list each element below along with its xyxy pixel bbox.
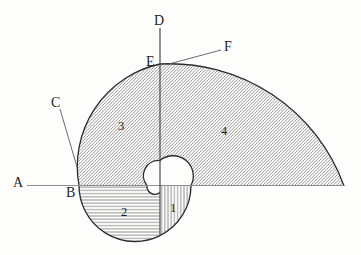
point-label-e: E [146,54,155,69]
region-label-2: 2 [121,205,127,219]
region-label-3: 3 [118,119,124,133]
point-label-d: D [154,13,164,28]
spiral-figure: A B C D E F 1 2 3 4 [0,0,361,255]
pointer-line-f [167,50,221,65]
hatch-region-2 [79,186,160,242]
point-label-c: C [51,95,60,110]
point-label-f: F [224,39,232,54]
region-label-4: 4 [221,124,228,138]
pointer-line-c [60,109,77,167]
point-label-b: B [66,185,75,200]
region-label-1: 1 [170,201,176,215]
spiral-diagram-canvas: A B C D E F 1 2 3 4 [0,0,361,255]
point-label-a: A [13,175,24,190]
